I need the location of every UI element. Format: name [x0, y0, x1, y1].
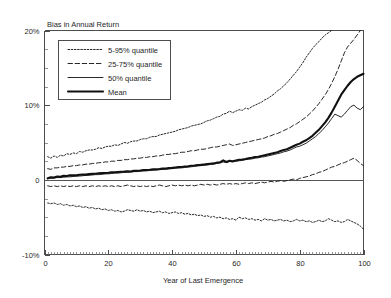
bias-in-annual-return-chart: -10%010%20% 020406080100 Bias in Annual … [0, 0, 391, 298]
y-tick-label: 0 [35, 176, 39, 185]
x-tick-label: 60 [232, 259, 240, 268]
x-tick-label: 20 [104, 259, 112, 268]
x-axis-title: Year of Last Emergence [163, 276, 243, 285]
x-tick-label: 100 [358, 259, 371, 268]
y-tick-label: 20% [24, 27, 39, 36]
y-axis-title: Bias in Annual Return [47, 20, 119, 29]
x-tick-label: 0 [43, 259, 47, 268]
y-tick-label: -10% [22, 251, 40, 260]
chart-container: -10%010%20% 020406080100 Bias in Annual … [0, 0, 391, 298]
x-tick-label: 40 [168, 259, 176, 268]
y-axis-tick-labels: -10%010%20% [22, 27, 40, 260]
x-tick-label: 80 [296, 259, 304, 268]
y-tick-label: 10% [24, 101, 39, 110]
legend-label: 25-75% quantile [108, 60, 162, 69]
chart-legend: 5-95% quantile25-75% quantile50% quantil… [59, 41, 171, 100]
x-axis-tick-labels: 020406080100 [43, 259, 370, 268]
legend-label: 5-95% quantile [108, 46, 158, 55]
legend-label: Mean [108, 88, 127, 97]
legend-label: 50% quantile [108, 74, 151, 83]
